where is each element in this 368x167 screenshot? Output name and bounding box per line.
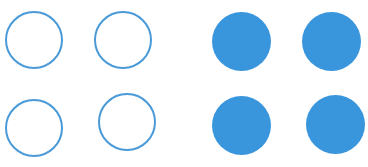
filled-circle-3 <box>212 96 271 155</box>
empty-circle-1 <box>5 11 63 69</box>
filled-circle-4 <box>306 95 365 154</box>
empty-circle-2 <box>94 11 152 69</box>
diagram-canvas <box>0 0 368 167</box>
empty-circle-3 <box>5 99 63 157</box>
filled-circle-2 <box>302 12 361 71</box>
filled-circle-1 <box>212 12 271 71</box>
empty-circle-4 <box>98 93 156 151</box>
